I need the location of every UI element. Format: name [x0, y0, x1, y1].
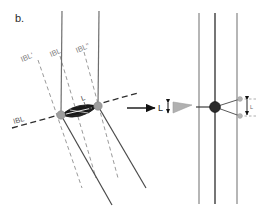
left-node: [57, 111, 65, 119]
band-label-ibl-prime: IBL': [19, 51, 35, 64]
right-splay-node-upper: [238, 97, 243, 102]
band-label-ibl-double-prime: IBL": [74, 41, 91, 55]
lens-wedge-symbol: [173, 102, 192, 113]
vertical-band-right: [98, 11, 99, 106]
left-panel-group: IBL' IBL IBL" IBL L: [12, 11, 146, 205]
right-panel-node: [210, 102, 221, 113]
transform-lens-label: L: [158, 103, 163, 113]
right-splay-node-lower: [238, 114, 243, 119]
panel-label: b.: [15, 12, 24, 24]
right-panel-group: L: [196, 13, 258, 204]
band-label-ibl-horizontal: IBL: [12, 114, 25, 126]
lower-solid-band-right: [98, 106, 146, 188]
lens-label-L: L: [80, 94, 86, 102]
right-thickness-label: L: [250, 104, 253, 110]
right-node: [94, 102, 102, 110]
figure-container: b.: [0, 0, 263, 219]
vertical-band-left: [61, 11, 62, 115]
dashed-band-ibl-double-prime: [84, 52, 118, 178]
structural-geology-figure: b.: [0, 0, 263, 219]
transform-group: L: [127, 102, 192, 113]
dashed-band-ibl-prime: [38, 60, 82, 188]
